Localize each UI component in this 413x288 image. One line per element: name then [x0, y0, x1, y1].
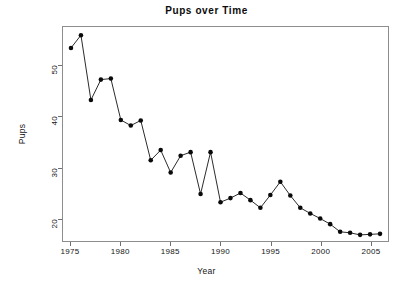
- data-point: [69, 46, 74, 51]
- x-axis-tick-label: 1975: [61, 247, 80, 256]
- data-point: [168, 170, 173, 175]
- x-axis-tick-label: 1980: [111, 247, 130, 256]
- data-point: [338, 230, 343, 235]
- data-point: [158, 148, 163, 153]
- data-line: [71, 35, 380, 235]
- x-axis-tickmark: [120, 242, 121, 246]
- x-axis-tick-label: 1990: [211, 247, 230, 256]
- data-point: [268, 193, 273, 198]
- y-axis-tick-layer: 20304050: [0, 0, 54, 288]
- data-point: [328, 222, 333, 227]
- data-point: [238, 191, 243, 196]
- x-axis-tickmark: [220, 242, 221, 246]
- y-axis-label: Pups: [17, 124, 27, 145]
- data-point: [318, 216, 323, 221]
- data-point: [228, 196, 233, 201]
- x-axis-tick-label: 1985: [161, 247, 180, 256]
- data-point: [308, 211, 313, 216]
- data-point: [368, 232, 373, 237]
- data-point: [208, 150, 213, 155]
- x-axis-tick-label: 2000: [311, 247, 330, 256]
- data-point: [109, 76, 114, 81]
- data-point: [198, 192, 203, 197]
- data-point: [278, 179, 283, 184]
- y-axis-tick-label: 20: [50, 219, 59, 229]
- y-axis-tick-label: 40: [50, 116, 59, 126]
- data-point: [89, 98, 94, 103]
- plot-svg: [63, 27, 388, 241]
- data-point: [288, 193, 293, 198]
- x-axis-tick-label: 2005: [361, 247, 380, 256]
- plot-area: [62, 26, 389, 242]
- x-axis-tick-label: 1995: [261, 247, 280, 256]
- data-point: [298, 206, 303, 211]
- x-axis-label: Year: [0, 266, 413, 276]
- data-point-group: [69, 33, 383, 237]
- x-axis-tickmark: [271, 242, 272, 246]
- data-point: [178, 153, 183, 158]
- x-axis-tickmark: [170, 242, 171, 246]
- data-point: [79, 33, 84, 38]
- chart-figure: Pups over Time 20304050 1975198019851990…: [0, 0, 413, 288]
- y-axis-tick-label: 50: [50, 65, 59, 75]
- x-axis-tickmark: [321, 242, 322, 246]
- data-point: [99, 77, 104, 82]
- data-point: [138, 118, 143, 123]
- x-axis-tickmark: [371, 242, 372, 246]
- data-point: [248, 198, 253, 203]
- data-point: [358, 233, 363, 238]
- y-axis-tick-label: 30: [50, 168, 59, 178]
- data-point: [348, 231, 353, 236]
- x-axis-tickmark: [70, 242, 71, 246]
- chart-title: Pups over Time: [0, 5, 413, 16]
- data-point: [119, 118, 124, 123]
- data-point: [218, 200, 223, 205]
- data-point: [258, 206, 263, 211]
- data-point: [129, 123, 134, 128]
- data-point: [148, 158, 153, 163]
- data-point: [378, 232, 383, 237]
- data-point: [188, 150, 193, 155]
